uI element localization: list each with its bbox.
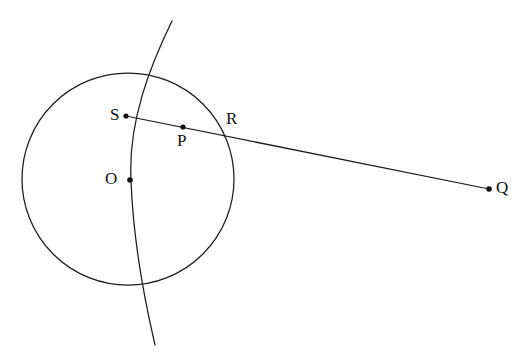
geometry-canvas <box>0 0 528 362</box>
point-label-q: Q <box>496 179 508 196</box>
point-label-s: S <box>110 106 119 123</box>
point-label-o: O <box>105 170 117 187</box>
point-q-dot <box>486 186 492 192</box>
point-p-dot <box>180 124 185 129</box>
point-o-dot <box>127 177 133 183</box>
intersecting-arc <box>131 21 172 345</box>
point-label-r: R <box>226 110 237 127</box>
point-label-p: P <box>177 132 186 149</box>
point-s-dot <box>123 113 128 118</box>
geometry-figure: S P R O Q <box>0 0 528 362</box>
